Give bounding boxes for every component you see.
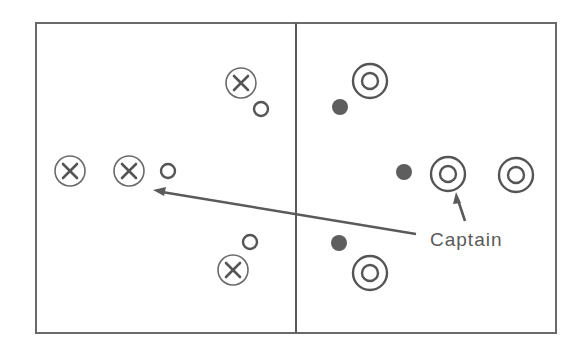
crossed-circle-player-icon	[226, 68, 256, 98]
crossed-circle-player-icon	[218, 255, 248, 285]
filled-dot-player-icon	[332, 99, 348, 115]
double-circle-player-icon	[353, 64, 387, 98]
open-circle-player-icon	[243, 235, 257, 249]
arrowhead-icon	[153, 187, 166, 196]
filled-dot-player-icon	[396, 164, 412, 180]
captain-pointer-arrow	[453, 192, 465, 221]
crossed-circle-player-icon	[55, 156, 85, 186]
crossed-circle-player-icon	[114, 156, 144, 186]
double-circle-player-icon	[499, 158, 533, 192]
open-circle-player-icon	[254, 102, 268, 116]
formation-diagram: Captain	[0, 0, 578, 359]
filled-dot-player-icon	[331, 235, 347, 251]
arrowhead-icon	[453, 192, 461, 204]
captain-double-circle-icon	[431, 157, 465, 191]
captain-label: Captain	[430, 229, 503, 250]
pass-arrow	[153, 187, 416, 234]
double-circle-player-icon	[353, 256, 387, 290]
open-circle-player-icon	[161, 164, 175, 178]
